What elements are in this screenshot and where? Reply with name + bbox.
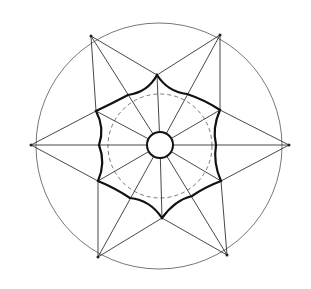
center-circle bbox=[147, 132, 173, 158]
star-construction-diagram bbox=[0, 0, 311, 289]
